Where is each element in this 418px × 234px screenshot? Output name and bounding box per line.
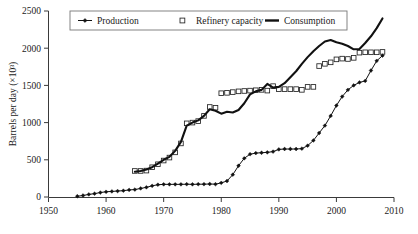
refinery-capacity-marker bbox=[323, 62, 328, 67]
refinery-capacity-marker bbox=[346, 57, 351, 62]
x-tick-label: 2000 bbox=[327, 206, 346, 216]
chart-legend: ProductionRefinery capacityConsumption bbox=[70, 11, 347, 30]
production-marker bbox=[150, 184, 154, 188]
production-marker bbox=[265, 150, 269, 154]
series-consumption bbox=[135, 18, 383, 171]
refinery-capacity-marker bbox=[225, 91, 230, 96]
y-tick-label: 1500 bbox=[22, 81, 41, 91]
production-marker bbox=[271, 150, 275, 154]
legend-label-production: Production bbox=[97, 16, 139, 26]
legend-label-refinery-capacity: Refinery capacity bbox=[196, 16, 264, 26]
y-axis-ticks: 05001000150020002500 bbox=[22, 6, 49, 202]
production-marker bbox=[144, 185, 148, 189]
refinery-capacity-marker bbox=[369, 50, 374, 55]
production-marker bbox=[283, 147, 287, 151]
production-marker bbox=[358, 81, 362, 85]
production-marker bbox=[133, 188, 137, 192]
y-tick-label: 500 bbox=[27, 155, 42, 165]
production-marker bbox=[208, 182, 212, 186]
x-tick-label: 1970 bbox=[154, 206, 173, 216]
x-tick-label: 2010 bbox=[385, 206, 404, 216]
chart-figure: 05001000150020002500 1950196019701980199… bbox=[0, 0, 418, 234]
production-marker bbox=[139, 187, 143, 191]
production-marker bbox=[93, 192, 97, 196]
consumption-line bbox=[135, 18, 383, 171]
y-axis-title: Barrels per day (×10³) bbox=[8, 62, 19, 146]
refinery-capacity-marker bbox=[294, 87, 299, 92]
x-axis-ticks: 1950196019701980199020002010 bbox=[39, 198, 404, 217]
refinery-capacity-marker bbox=[282, 87, 287, 92]
legend-label-consumption: Consumption bbox=[284, 16, 335, 26]
refinery-capacity-marker bbox=[300, 88, 305, 93]
refinery-capacity-marker bbox=[248, 88, 253, 93]
refinery-capacity-marker bbox=[311, 85, 316, 90]
production-marker bbox=[288, 147, 292, 151]
axes-group bbox=[49, 11, 395, 198]
production-marker bbox=[173, 182, 177, 186]
refinery-capacity-marker bbox=[363, 50, 368, 55]
y-tick-label: 0 bbox=[36, 192, 41, 202]
refinery-capacity-marker bbox=[340, 56, 345, 61]
x-tick-label: 1960 bbox=[97, 206, 116, 216]
production-marker bbox=[219, 181, 223, 185]
production-marker bbox=[260, 151, 264, 155]
production-marker bbox=[81, 194, 85, 198]
production-line bbox=[77, 56, 382, 197]
series-production bbox=[75, 54, 384, 198]
refinery-capacity-marker bbox=[351, 56, 356, 61]
production-marker bbox=[214, 182, 218, 186]
production-marker bbox=[185, 182, 189, 186]
production-marker bbox=[104, 190, 108, 194]
production-marker bbox=[254, 151, 258, 155]
refinery-capacity-marker bbox=[236, 89, 241, 94]
refinery-capacity-marker bbox=[374, 50, 379, 55]
refinery-capacity-marker bbox=[288, 87, 293, 92]
refinery-capacity-marker bbox=[265, 88, 270, 93]
refinery-capacity-marker bbox=[242, 89, 247, 94]
production-marker bbox=[363, 79, 367, 83]
chart-plot-area: 05001000150020002500 1950196019701980199… bbox=[0, 0, 418, 234]
production-marker bbox=[121, 189, 125, 193]
refinery-capacity-marker bbox=[305, 85, 310, 90]
refinery-capacity-marker bbox=[230, 90, 235, 95]
refinery-capacity-marker bbox=[357, 50, 362, 55]
production-marker bbox=[300, 147, 304, 151]
y-tick-label: 2000 bbox=[22, 44, 41, 54]
refinery-capacity-marker bbox=[328, 60, 333, 65]
x-tick-label: 1990 bbox=[269, 206, 288, 216]
production-marker bbox=[196, 182, 200, 186]
production-marker bbox=[168, 182, 172, 186]
production-marker bbox=[294, 147, 298, 151]
y-tick-label: 1000 bbox=[22, 118, 41, 128]
production-marker bbox=[179, 182, 183, 186]
refinery-capacity-marker bbox=[334, 57, 339, 62]
production-marker bbox=[162, 182, 166, 186]
production-marker bbox=[116, 189, 120, 193]
refinery-capacity-marker bbox=[317, 64, 322, 69]
production-marker bbox=[191, 182, 195, 186]
y-tick-label: 2500 bbox=[22, 6, 41, 16]
legend-refinery-capacity-swatch bbox=[180, 18, 185, 23]
production-marker bbox=[87, 192, 91, 196]
refinery-capacity-marker bbox=[219, 91, 224, 96]
x-tick-label: 1950 bbox=[39, 206, 58, 216]
production-marker bbox=[156, 183, 160, 187]
data-series-layer bbox=[75, 18, 384, 198]
production-marker bbox=[127, 188, 131, 192]
production-marker bbox=[98, 191, 102, 195]
x-tick-label: 1980 bbox=[212, 206, 231, 216]
production-marker bbox=[277, 147, 281, 151]
production-marker bbox=[110, 190, 114, 194]
production-marker bbox=[202, 182, 206, 186]
